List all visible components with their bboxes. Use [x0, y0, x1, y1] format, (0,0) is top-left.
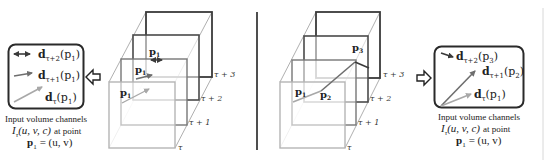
- caption-line1: Input volume channels: [5, 114, 87, 124]
- frame-tau: [280, 82, 345, 148]
- diagram-svg: dτ+2(p1) dτ+1(p1) dτ(p1) Input volume ch…: [0, 0, 546, 160]
- left-frame-stack: p1 p1 p1 τ τ + 1 τ + 2 τ + 3: [109, 12, 235, 152]
- box-label-d-tau: dτ(p1): [45, 91, 77, 106]
- box-label-d-tau: dτ(p1): [474, 88, 506, 103]
- frame-label-tau3: τ + 3: [383, 70, 404, 79]
- caption-line1: Input volume channels: [438, 112, 520, 122]
- frame-label-tau: τ: [178, 143, 183, 152]
- frame-label-tau3: τ + 3: [214, 70, 235, 79]
- frame-label-tau2: τ + 2: [201, 94, 222, 103]
- right-caption: Input volume channels Iτ(u, v, c)at poin…: [438, 112, 520, 149]
- hollow-arrow-right-icon: [417, 71, 431, 85]
- frame-label-tau1: τ + 1: [358, 118, 379, 127]
- right-frame-stack: p1 p2 p3 τ τ + 1 τ + 2 τ + 3: [280, 12, 404, 152]
- frame-label-tau: τ: [347, 143, 352, 152]
- left-channels-box: dτ+2(p1) dτ+1(p1) dτ(p1): [9, 45, 84, 109]
- caption-line3: p1= (u, v): [456, 134, 502, 149]
- caption-line3: p1= (u, v): [27, 136, 73, 151]
- right-channels-box: dτ+2(p3) dτ+1(p2) dτ(p1): [435, 47, 525, 108]
- left-caption: Input volume channels Iτ(u, v, c)at poin…: [5, 114, 87, 151]
- frame-label-tau1: τ + 1: [189, 118, 210, 127]
- diagram-canvas: dτ+2(p1) dτ+1(p1) dτ(p1) Input volume ch…: [0, 0, 546, 160]
- hollow-arrow-left-icon: [86, 70, 100, 84]
- frame-label-tau2: τ + 2: [370, 94, 391, 103]
